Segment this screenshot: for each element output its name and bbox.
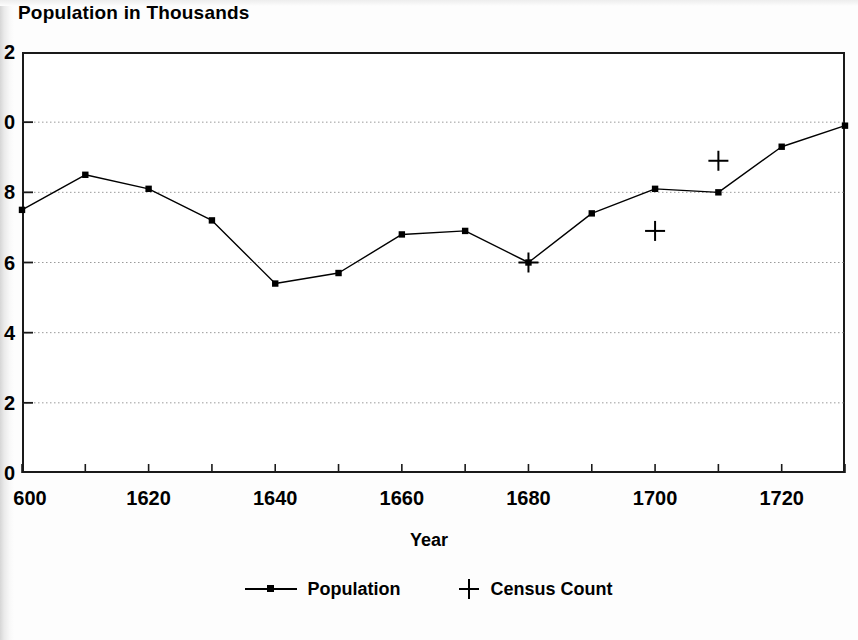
- x-axis-tick-label: 1700: [633, 487, 678, 510]
- y-axis-tick-label: 8: [0, 181, 15, 204]
- plot-frame: [22, 52, 845, 473]
- legend-item-census-count: Census Count: [458, 578, 612, 600]
- y-axis-tick-label: 0: [0, 111, 15, 134]
- x-axis-tick-label: 1640: [253, 487, 298, 510]
- legend-label-census-count: Census Count: [490, 579, 612, 600]
- legend-item-population: Population: [245, 579, 400, 600]
- x-axis-tick-label: 1680: [506, 487, 551, 510]
- x-axis-tick-label: 1620: [126, 487, 171, 510]
- chart-title: Population in Thousands: [18, 2, 250, 24]
- y-axis-tick-label: 2: [0, 391, 15, 414]
- x-axis-tick-label: 1660: [380, 487, 425, 510]
- y-axis-tick-label: 4: [0, 321, 15, 344]
- line-marker-icon: [245, 582, 297, 596]
- chart-page: Population in Thousands 0246802 60016201…: [0, 0, 858, 640]
- x-axis-tick-label: 1720: [759, 487, 804, 510]
- plus-marker-icon: [458, 578, 480, 600]
- legend-label-population: Population: [307, 579, 400, 600]
- x-axis-tick-label: 600: [13, 487, 46, 510]
- y-axis-tick-label: 0: [0, 462, 15, 485]
- x-axis-title: Year: [0, 530, 858, 551]
- y-axis-tick-label: 2: [0, 41, 15, 64]
- y-axis-tick-label: 6: [0, 251, 15, 274]
- chart-legend: Population Census Count: [0, 578, 858, 600]
